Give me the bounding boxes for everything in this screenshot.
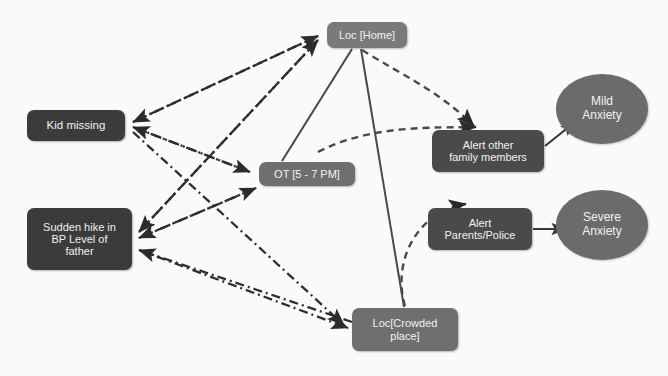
node-bp-hike[interactable]: Sudden hike in BP Level of father bbox=[27, 208, 132, 270]
node-kid-missing-label: Kid missing bbox=[31, 119, 121, 132]
node-alert-police-line2: Parents/Police bbox=[432, 229, 528, 241]
node-loc-home-label: Loc [Home] bbox=[331, 29, 403, 41]
edge-loc-crowded-to-bp-hike bbox=[139, 250, 352, 322]
node-kid-missing[interactable]: Kid missing bbox=[27, 110, 125, 141]
node-bp-hike-line3: father bbox=[31, 245, 128, 257]
edge-loc-home-to-ot-solid bbox=[282, 49, 352, 161]
node-ot-window[interactable]: OT [5 - 7 PM] bbox=[259, 162, 355, 186]
node-loc-crowded-line1: Loc[Crowded bbox=[356, 317, 454, 329]
node-alert-police[interactable]: Alert Parents/Police bbox=[428, 208, 532, 250]
node-loc-crowded-line2: place] bbox=[356, 330, 454, 342]
edge-loc-home-to-kid-missing bbox=[133, 36, 318, 122]
node-loc-crowded[interactable]: Loc[Crowded place] bbox=[352, 308, 458, 351]
edge-loc-home-to-loc-crowded-solid bbox=[361, 49, 404, 307]
node-mild-anxiety-line1: Mild bbox=[556, 95, 648, 109]
node-bp-hike-line1: Sudden hike in bbox=[31, 221, 128, 233]
node-bp-hike-line2: BP Level of bbox=[31, 233, 128, 245]
diagram-canvas: Kid missing Sudden hike in BP Level of f… bbox=[0, 0, 668, 376]
node-loc-home[interactable]: Loc [Home] bbox=[327, 22, 407, 48]
edge-kid-missing-to-loc-crowded bbox=[133, 132, 344, 325]
edge-loc-home-to-bp-hike bbox=[139, 40, 318, 232]
node-severe-anxiety[interactable]: Severe Anxiety bbox=[556, 190, 648, 260]
node-mild-anxiety-line2: Anxiety bbox=[556, 109, 648, 123]
node-ot-window-label: OT [5 - 7 PM] bbox=[263, 168, 351, 180]
node-alert-family-line1: Alert other bbox=[436, 139, 540, 151]
node-alert-family-line2: family members bbox=[436, 151, 540, 163]
node-severe-anxiety-line1: Severe bbox=[556, 211, 648, 225]
node-mild-anxiety[interactable]: Mild Anxiety bbox=[556, 74, 648, 144]
node-alert-family[interactable]: Alert other family members bbox=[432, 130, 544, 172]
node-alert-police-line1: Alert bbox=[432, 217, 528, 229]
edge-loc-home-to-alert-family bbox=[362, 50, 474, 126]
edge-layer bbox=[0, 0, 668, 376]
node-severe-anxiety-line2: Anxiety bbox=[556, 225, 648, 239]
